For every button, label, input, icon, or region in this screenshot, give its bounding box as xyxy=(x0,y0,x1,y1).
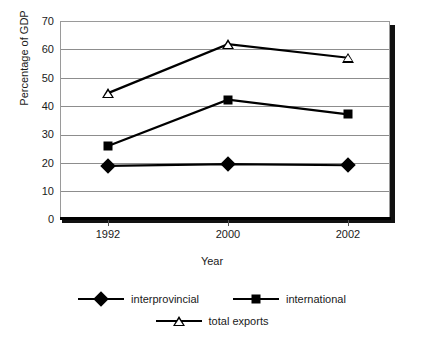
filled-square-icon xyxy=(233,292,279,306)
legend-item-total-exports[interactable]: total exports xyxy=(156,314,269,328)
filled-square-icon xyxy=(224,95,233,104)
legend-row-secondary: total exports xyxy=(0,310,424,332)
x-axis-tick xyxy=(228,220,229,226)
legend-item-interprovincial[interactable]: interprovincial xyxy=(78,292,199,306)
legend-label: international xyxy=(286,293,346,305)
legend-row-primary: interprovincial international xyxy=(0,288,424,310)
line-chart: Percentage of GDP 70 60 50 40 30 20 10 0… xyxy=(0,0,424,339)
x-tick-label-2002: 2002 xyxy=(318,228,378,240)
series-line-total-exports xyxy=(108,44,348,93)
filled-square-icon xyxy=(344,110,353,119)
x-tick-label-2000: 2000 xyxy=(198,228,258,240)
legend-item-international[interactable]: international xyxy=(233,292,346,306)
x-axis-title: Year xyxy=(0,255,424,267)
x-axis-tick xyxy=(348,220,349,226)
x-tick-label-1992: 1992 xyxy=(78,228,138,240)
open-triangle-icon xyxy=(102,88,114,98)
open-triangle-icon xyxy=(342,53,354,63)
legend-label: interprovincial xyxy=(131,293,199,305)
filled-diamond-icon xyxy=(78,292,124,306)
filled-square-icon xyxy=(104,142,113,151)
chart-legend: interprovincial international total expo… xyxy=(0,288,424,332)
open-triangle-icon xyxy=(222,39,234,49)
legend-label: total exports xyxy=(209,315,269,327)
x-axis-tick xyxy=(108,220,109,226)
series-line-international xyxy=(108,100,348,146)
open-triangle-icon xyxy=(156,314,202,328)
